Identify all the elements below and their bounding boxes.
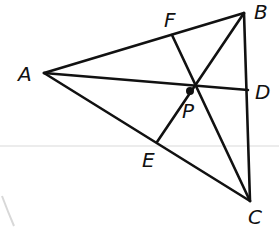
faint-curve-artifact <box>2 196 14 226</box>
label-f: F <box>164 8 176 32</box>
label-p: P <box>182 99 195 123</box>
segment-be <box>157 13 244 142</box>
segment-ad <box>44 73 248 90</box>
label-d: D <box>255 80 270 104</box>
label-c: C <box>248 205 262 229</box>
side-bc <box>244 13 250 201</box>
diagram-canvas: A B F D P E C <box>0 0 279 229</box>
side-ab <box>44 13 244 73</box>
point-p-dot <box>186 87 194 95</box>
label-e: E <box>142 148 155 172</box>
label-a: A <box>16 62 32 86</box>
label-b: B <box>254 0 268 24</box>
